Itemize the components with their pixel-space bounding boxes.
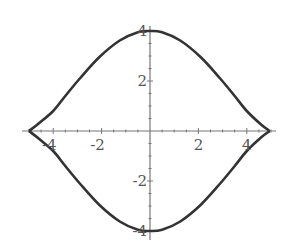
y-tick-label: 2 <box>137 72 147 90</box>
x-tick-label: 2 <box>194 136 204 154</box>
y-tick-label: -4 <box>132 222 147 240</box>
x-tick-label: 4 <box>242 136 252 154</box>
parametric-plot: -4-224-4-224 <box>0 0 293 250</box>
x-tick-label: -2 <box>90 136 105 154</box>
x-tick-label: -4 <box>42 136 57 154</box>
y-tick-label: 4 <box>137 22 147 40</box>
y-tick-label: -2 <box>132 172 147 190</box>
